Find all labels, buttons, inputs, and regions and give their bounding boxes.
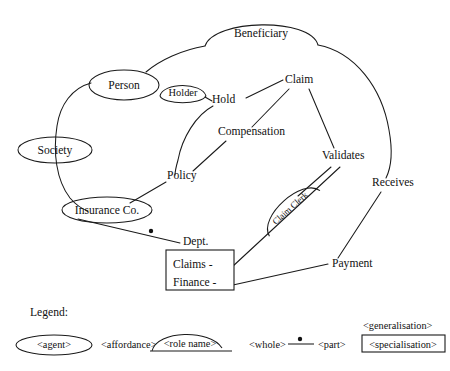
agent-label-insurance-co: Insurance Co. [75,204,139,217]
agent-label-person: Person [108,79,140,92]
legend-title: Legend: [30,306,68,319]
role-label-beneficiary: Beneficiary [234,27,288,40]
edge-beneficiary-to-person [146,46,205,72]
affordance-label-hold[interactable]: Hold [212,93,235,106]
agent-affordance-diagram: Beneficiary Holder Claim Clerk Person So… [0,0,450,371]
legend-affordance-label: <affordance> [101,339,157,350]
edge-hold-to-policy [175,106,213,175]
whole-part-dot [149,229,153,233]
edge-receives-to-payment [338,192,381,258]
affordance-label-payment[interactable]: Payment [332,257,373,270]
role-label-holder: Holder [169,87,198,98]
edge-compensation-to-policy [193,141,226,171]
affordance-label-policy[interactable]: Policy [167,169,197,182]
affordance-label-receives[interactable]: Receives [372,176,414,189]
legend-whole-label: <whole> [249,339,286,350]
agent-layer: Person Society Insurance Co. [18,70,159,223]
affordance-label-claim[interactable]: Claim [285,73,313,86]
edge-finance-to-payment [233,264,328,285]
legend-agent-label: <agent> [37,339,71,350]
dept-box-item-finance[interactable]: Finance - [173,276,217,289]
specialisation-box-dept[interactable]: Claims - Finance - [166,250,234,290]
legend-role-name-label: <role name> [164,338,217,349]
diagram-canvas: Beneficiary Holder Claim Clerk Person So… [0,0,450,371]
role-group-claim-clerk: Claim Clerk [258,178,320,236]
dept-box-item-claims[interactable]: Claims - [173,258,213,271]
edge-hold-to-claim [246,80,283,98]
legend-generalisation-label: <generalisation> [363,320,433,331]
legend: Legend: <agent> <affordance> <role name>… [16,306,445,355]
affordance-label-compensation[interactable]: Compensation [218,125,285,138]
legend-whole-part-dot [298,337,302,341]
edge-claim-to-validates [309,89,334,148]
legend-specialisation-label: <specialisation> [369,339,437,350]
edge-holder-to-hold [205,97,212,101]
affordance-label-dept[interactable]: Dept. [183,235,209,248]
agent-label-society: Society [38,144,73,157]
edge-layer [55,45,391,285]
legend-part-label: <part> [318,339,346,350]
affordance-label-validates[interactable]: Validates [322,149,365,162]
affordance-layer: Hold Claim Compensation Policy Validates… [167,73,414,270]
edge-claim-to-compensation [252,89,289,127]
